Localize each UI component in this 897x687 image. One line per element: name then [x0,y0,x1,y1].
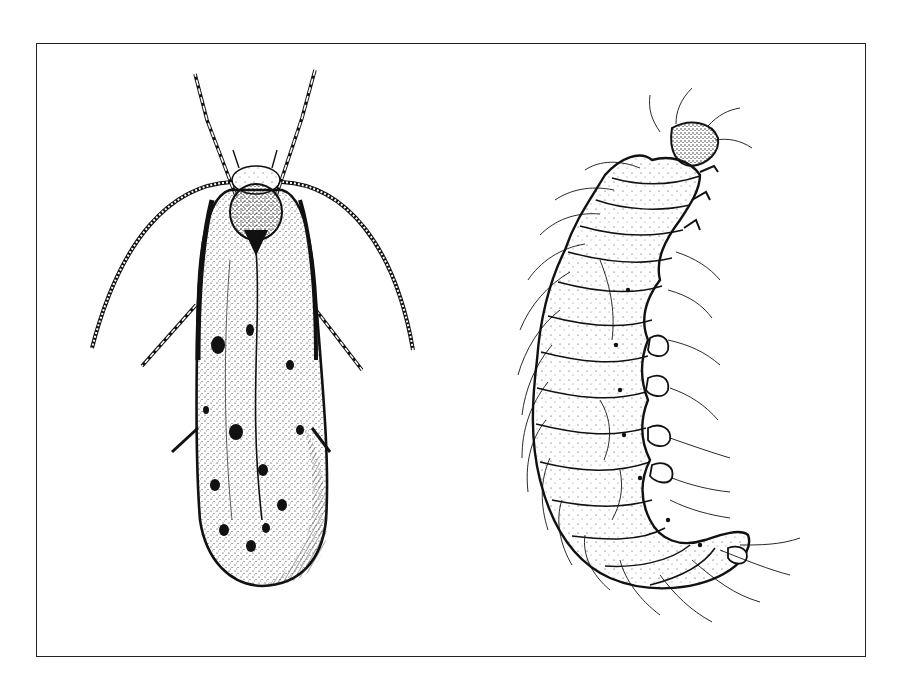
larva-head [671,123,718,166]
moth-wings [197,190,327,586]
larva-body [533,156,749,589]
larva [518,88,800,622]
illustration-canvas [0,0,897,687]
adult-moth [92,70,413,586]
